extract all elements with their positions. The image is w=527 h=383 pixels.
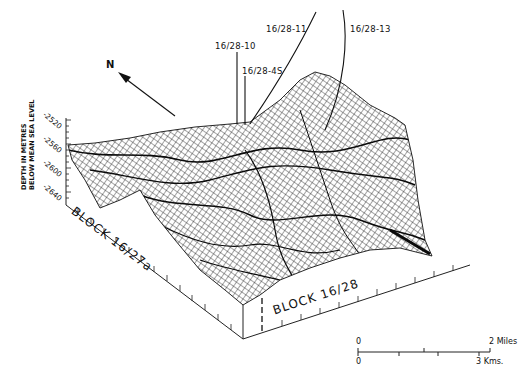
north-label: N — [106, 59, 114, 70]
well-label-16-28-4s: 16/28-4S — [242, 66, 283, 76]
surface-diagram — [0, 0, 527, 383]
north-arrow — [118, 72, 175, 116]
well-label-16-28-13: 16/28-13 — [350, 24, 391, 34]
scale-bar — [358, 348, 490, 356]
depth-axis-title-line1: DEPTH IN METRES — [20, 99, 28, 190]
well-label-16-28-11: 16/28-11 — [266, 24, 307, 34]
scale-miles-start: 0 — [356, 337, 361, 346]
scale-miles-end: 2 Miles — [489, 337, 517, 346]
depth-axis-title: DEPTH IN METRES BELOW MEAN SEA LEVEL — [20, 99, 36, 190]
scale-km-start: 0 — [356, 357, 361, 366]
scale-km-end: 3 Kms. — [476, 357, 503, 366]
well-label-16-28-10: 16/28-10 — [215, 41, 256, 51]
depth-axis-ticks — [66, 120, 71, 198]
depth-axis-title-line2: BELOW MEAN SEA LEVEL — [28, 99, 36, 190]
wireframe-surface — [0, 0, 527, 383]
